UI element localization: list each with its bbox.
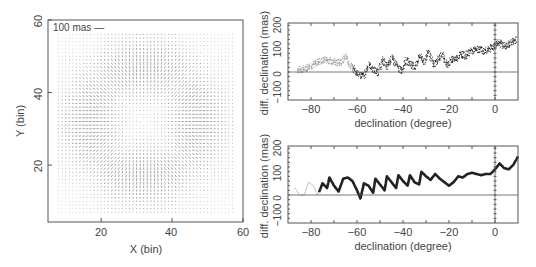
data-point — [365, 77, 366, 78]
data-point — [513, 44, 514, 45]
data-point — [416, 61, 417, 62]
data-point — [436, 59, 437, 60]
data-point — [338, 60, 339, 61]
data-point — [448, 61, 449, 62]
data-point — [467, 50, 468, 51]
data-point — [425, 64, 426, 65]
data-point — [384, 61, 385, 62]
data-point — [390, 56, 391, 57]
data-point — [449, 58, 450, 59]
data-point — [315, 66, 316, 67]
data-point — [354, 69, 355, 70]
data-point — [336, 62, 337, 63]
data-point — [381, 62, 382, 63]
data-point — [493, 46, 494, 47]
data-point — [407, 58, 408, 59]
data-point — [430, 54, 431, 55]
data-point — [421, 56, 422, 57]
data-point — [366, 68, 367, 69]
data-point — [327, 60, 328, 61]
data-point — [500, 47, 501, 48]
data-point — [433, 67, 434, 68]
data-point — [513, 40, 514, 41]
data-point — [504, 47, 505, 48]
data-point — [403, 66, 404, 67]
data-point — [437, 62, 438, 63]
data-point — [303, 70, 304, 71]
data-point — [324, 62, 325, 63]
y-tick-label: 100 — [272, 40, 283, 57]
data-point — [307, 64, 308, 65]
data-point — [472, 50, 473, 51]
data-point — [367, 68, 368, 69]
data-point — [483, 48, 484, 49]
data-point — [341, 64, 342, 65]
data-point — [448, 63, 449, 64]
data-point — [306, 67, 307, 68]
data-point — [354, 68, 355, 69]
data-point — [509, 45, 510, 46]
data-point — [351, 63, 352, 64]
data-point — [335, 62, 336, 63]
data-point — [369, 67, 370, 68]
data-point — [347, 57, 348, 58]
data-point — [425, 63, 426, 64]
data-point — [439, 57, 440, 58]
data-point — [382, 64, 383, 65]
data-point — [403, 68, 404, 69]
data-point — [410, 66, 411, 67]
data-point — [454, 61, 455, 62]
data-point — [428, 50, 429, 51]
data-point — [364, 75, 365, 76]
data-point — [338, 63, 339, 64]
data-point — [349, 64, 350, 65]
data-point — [351, 68, 352, 69]
data-point — [452, 59, 453, 60]
data-point — [461, 53, 462, 54]
data-point — [458, 58, 459, 59]
data-point — [440, 58, 441, 59]
data-point — [417, 65, 418, 66]
data-point — [331, 62, 332, 63]
y-tick-label: 0 — [272, 71, 283, 77]
data-point — [398, 70, 399, 71]
data-point — [407, 64, 408, 65]
data-point — [393, 58, 394, 59]
data-point — [415, 62, 416, 63]
data-point — [508, 44, 509, 45]
data-point — [371, 69, 372, 70]
data-point — [514, 43, 515, 44]
data-point — [388, 63, 389, 64]
data-point — [358, 76, 359, 77]
data-point — [390, 60, 391, 61]
data-point — [367, 69, 368, 70]
data-point — [506, 44, 507, 45]
data-point — [335, 62, 336, 63]
data-point — [501, 42, 502, 43]
data-point — [397, 64, 398, 65]
data-point — [369, 65, 370, 66]
data-point — [305, 70, 306, 71]
data-point — [299, 73, 300, 74]
data-point — [389, 60, 390, 61]
data-point — [491, 46, 492, 47]
data-point — [410, 63, 411, 64]
data-point — [413, 69, 414, 70]
data-point — [445, 62, 446, 63]
data-point — [357, 74, 358, 75]
data-point — [381, 69, 382, 70]
x-axis-label: declination (degree) — [354, 117, 451, 129]
data-point — [301, 69, 302, 70]
data-point — [485, 50, 486, 51]
data-point — [340, 59, 341, 60]
data-point — [508, 47, 509, 48]
data-point — [415, 65, 416, 66]
data-point — [473, 53, 474, 54]
data-point — [372, 66, 373, 67]
data-point — [515, 39, 516, 40]
data-point — [348, 66, 349, 67]
data-point — [407, 60, 408, 61]
y-tick-label: 40 — [32, 88, 44, 100]
data-point — [412, 63, 413, 64]
data-point — [342, 57, 343, 58]
